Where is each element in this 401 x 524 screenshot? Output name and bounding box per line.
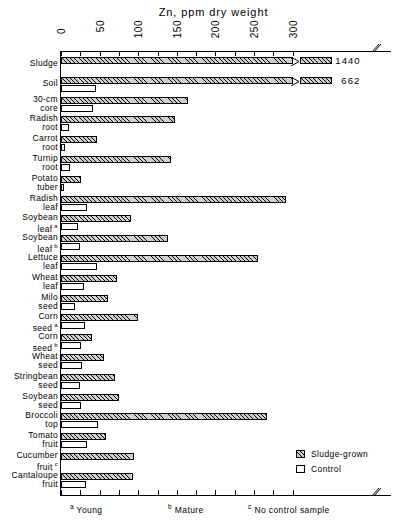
offscale-value-sludge: 1440 — [335, 55, 360, 66]
category-label-corn-seed-b: Cornseed b — [0, 332, 58, 353]
category-label-milo-seed: Miloseed — [0, 293, 58, 311]
bar-sludge-stringbean-seed — [61, 374, 115, 381]
zinc-bar-chart-figure: Zn, ppm dry weight 050100150200250300 Sl… — [0, 0, 401, 524]
x-tick-200 — [215, 51, 216, 56]
bar-sludge-soybean-leaf-a — [61, 215, 131, 222]
category-label-soybean-seed: Soybeanseed — [0, 392, 58, 410]
category-label-footnote-mark: a — [52, 223, 58, 229]
category-label-line2: leaf — [0, 282, 58, 291]
bar-control-30-cm-core — [61, 105, 93, 112]
category-label-cantaloupe-fruit: Cantaloupefruit — [0, 471, 58, 489]
category-label-line2: root — [0, 123, 58, 132]
bar-offscale-stub-sludge — [300, 57, 332, 64]
x-tick-label-250: 250 — [249, 20, 260, 38]
x-tick-label-300: 300 — [288, 20, 299, 38]
bar-sludge-potato-tuber — [61, 176, 81, 183]
x-tick-bottom-75 — [119, 490, 120, 495]
category-label-line2: root — [0, 163, 58, 172]
bar-control-milo-seed — [61, 303, 75, 310]
bar-control-corn-seed-b — [61, 342, 81, 349]
legend-entry-control: Control — [296, 464, 368, 474]
x-tick-label-150: 150 — [172, 20, 183, 38]
bar-control-corn-seed-a — [61, 322, 85, 329]
bar-sludge-tomato-fruit — [61, 433, 106, 440]
legend-label-control: Control — [311, 464, 341, 474]
category-label-wheat-seed: Wheatseed — [0, 352, 58, 370]
bar-control-soybean-seed — [61, 402, 81, 409]
category-label-cucumber-fruit-c: Cucumberfruit c — [0, 451, 58, 472]
category-label-line1: Soil — [0, 79, 58, 88]
footnote-a: a Young — [70, 503, 102, 515]
category-label-line2: seed — [0, 361, 58, 370]
footnote-text-b: Mature — [172, 505, 204, 515]
bar-sludge-soybean-seed — [61, 394, 119, 401]
category-label-potato-tuber: Potatotuber — [0, 174, 58, 192]
category-label-line2: fruit — [0, 480, 58, 489]
category-label-line1: Cucumber — [0, 451, 58, 460]
bar-control-carrot-root — [61, 144, 65, 151]
x-tick-bottom-225 — [235, 490, 236, 495]
category-label-broccoli-top: Broccolitop — [0, 411, 58, 429]
bar-control-turnip-root — [61, 164, 70, 171]
bar-sludge-wheat-leaf — [61, 275, 117, 282]
category-label-footnote-mark: c — [53, 461, 58, 467]
x-tick-bottom-300 — [293, 490, 294, 495]
x-tick-0 — [61, 51, 62, 56]
x-tick-50 — [100, 51, 101, 56]
category-label-line2: tuber — [0, 183, 58, 192]
x-tick-250 — [254, 51, 255, 56]
bar-sludge-radish-leaf — [61, 196, 286, 203]
x-tick-label-50: 50 — [95, 20, 106, 32]
bar-sludge-cucumber-fruit-c — [61, 453, 134, 460]
category-label-line2: core — [0, 104, 58, 113]
category-label-sludge: Sludge — [0, 59, 58, 68]
category-label-radish-leaf: Radishleaf — [0, 194, 58, 212]
category-label-line1: Sludge — [0, 59, 58, 68]
category-label-line2: leaf — [0, 203, 58, 212]
category-label-line1: Corn — [0, 312, 58, 321]
x-tick-bottom-0 — [61, 490, 62, 495]
bar-control-radish-root — [61, 124, 69, 131]
category-label-line2: root — [0, 143, 58, 152]
x-tick-label-100: 100 — [133, 20, 144, 38]
bar-sludge-radish-root — [61, 116, 175, 123]
bar-control-radish-leaf — [61, 204, 87, 211]
legend-swatch-sludge-grown — [296, 450, 305, 458]
category-label-tomato-fruit: Tomatofruit — [0, 431, 58, 449]
bar-sludge-turnip-root — [61, 156, 171, 163]
x-tick-bottom-200 — [215, 490, 216, 495]
category-label-line2: top — [0, 420, 58, 429]
category-label-footnote-mark: a — [52, 322, 58, 328]
category-label-wheat-leaf: Wheatleaf — [0, 273, 58, 291]
legend: Sludge-grown Control — [296, 449, 368, 479]
axis-break-mark-bottom — [370, 484, 381, 497]
x-tick-75 — [119, 51, 120, 56]
x-tick-bottom-25 — [80, 490, 81, 495]
bar-control-stringbean-seed — [61, 382, 80, 389]
x-tick-bottom-175 — [196, 490, 197, 495]
category-label-corn-seed-a: Cornseed a — [0, 312, 58, 333]
category-label-line1: Soybean — [0, 213, 58, 222]
x-tick-label-0: 0 — [56, 28, 67, 34]
bar-sludge-cantaloupe-fruit — [61, 473, 133, 480]
bar-control-lettuce-leaf — [61, 263, 97, 270]
bar-offscale-stub-soil — [300, 77, 332, 84]
x-tick-label-200: 200 — [210, 20, 221, 38]
bar-control-soybean-leaf-a — [61, 223, 78, 230]
legend-swatch-control — [296, 465, 305, 473]
x-tick-bottom-275 — [273, 490, 274, 495]
footnote-text-a: Young — [74, 505, 102, 515]
footnote-c: c No control sample — [248, 503, 330, 515]
x-tick-275 — [273, 51, 274, 56]
category-label-line1: Soybean — [0, 233, 58, 242]
bar-sludge-soybean-leaf-b — [61, 235, 168, 242]
category-label-line2: seed — [0, 381, 58, 390]
bar-sludge-carrot-root — [61, 136, 97, 143]
bar-control-broccoli-top — [61, 421, 98, 428]
category-label-line1: Corn — [0, 332, 58, 341]
chart-title: Zn, ppm dry weight — [0, 6, 401, 18]
footnote-text-c: No control sample — [252, 505, 330, 515]
x-tick-100 — [138, 51, 139, 56]
x-tick-bottom-250 — [254, 490, 255, 495]
x-tick-175 — [196, 51, 197, 56]
